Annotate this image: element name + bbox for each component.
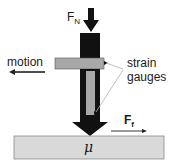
motion-arrow — [9, 69, 45, 75]
strain-gauge-leader-1 — [106, 63, 123, 69]
probe-arrowhead — [72, 122, 108, 136]
normal-force-arrow — [83, 8, 99, 32]
normal-force-label: FN — [67, 11, 80, 28]
vertical-beam — [86, 71, 95, 115]
strain-gauge-leader-2 — [96, 70, 123, 112]
probe-top-block — [80, 33, 100, 59]
motion-label: motion — [7, 56, 43, 68]
friction-force-label: Ff — [124, 114, 134, 131]
horizontal-beam — [55, 58, 104, 69]
friction-coefficient-label: μ — [84, 141, 93, 153]
strain-gauges-label: strain gauges — [127, 56, 166, 84]
